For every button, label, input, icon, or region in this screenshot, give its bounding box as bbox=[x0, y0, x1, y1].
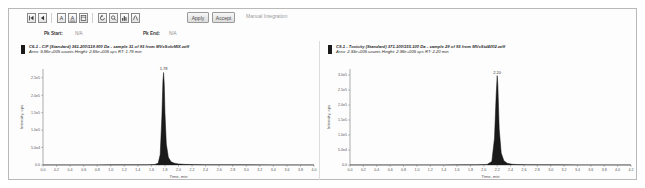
svg-text:1.0: 1.0 bbox=[108, 168, 113, 172]
svg-text:2.8: 2.8 bbox=[535, 168, 540, 172]
toolbar-separator-2 bbox=[92, 13, 93, 23]
svg-text:0.2: 0.2 bbox=[361, 168, 366, 172]
annotate-a-icon[interactable]: A bbox=[57, 13, 66, 23]
svg-text:A: A bbox=[71, 15, 75, 21]
chromatogram-viewer: A A Apply Accept Manual Integration Pk S… bbox=[8, 8, 637, 180]
svg-text:5.0e4: 5.0e4 bbox=[31, 146, 40, 150]
chromatogram-plot-left[interactable]: 0.00.20.40.60.81.01.21.41.61.82.02.22.42… bbox=[13, 59, 318, 179]
svg-text:2.0e5: 2.0e5 bbox=[31, 94, 40, 98]
svg-text:Time, min: Time, min bbox=[169, 174, 188, 179]
pk-end-value[interactable]: N/A bbox=[169, 31, 177, 36]
svg-text:0.8: 0.8 bbox=[95, 168, 100, 172]
refresh-icon[interactable] bbox=[98, 13, 107, 23]
svg-text:3.8: 3.8 bbox=[602, 168, 607, 172]
svg-text:Time, min: Time, min bbox=[481, 174, 500, 179]
chromatogram-pane-right[interactable]: C9-1 - Toxicity (Standard) 371.100/155.1… bbox=[319, 41, 635, 180]
chromatogram-panes: C6-1 - C/F (Standard) 361.200/119.900 Da… bbox=[9, 41, 636, 180]
svg-text:3.4: 3.4 bbox=[575, 168, 580, 172]
svg-text:2.2: 2.2 bbox=[495, 168, 500, 172]
peak-metrics-line: Area: 9.86e+005 counts Height: 2.65e+005… bbox=[29, 49, 189, 54]
svg-text:3.4: 3.4 bbox=[271, 168, 276, 172]
svg-text:2.5e5: 2.5e5 bbox=[31, 76, 40, 80]
svg-text:4.0: 4.0 bbox=[615, 168, 620, 172]
svg-text:0.8: 0.8 bbox=[401, 168, 406, 172]
series-color-swatch bbox=[328, 45, 332, 54]
svg-text:5.0e4: 5.0e4 bbox=[338, 148, 347, 152]
bar-view-icon[interactable] bbox=[120, 13, 129, 23]
svg-text:1.8: 1.8 bbox=[468, 168, 473, 172]
svg-text:3.6: 3.6 bbox=[284, 168, 289, 172]
svg-text:3.2: 3.2 bbox=[257, 168, 262, 172]
svg-text:0.4: 0.4 bbox=[68, 168, 73, 172]
peak-bounds-row: Pk Start: N/A Pk End: N/A bbox=[9, 29, 636, 41]
svg-text:2.2: 2.2 bbox=[190, 168, 195, 172]
pk-start-label: Pk Start: bbox=[44, 31, 63, 36]
svg-text:1.2: 1.2 bbox=[122, 168, 127, 172]
svg-text:0.4: 0.4 bbox=[374, 168, 379, 172]
nav-prev-icon[interactable] bbox=[38, 13, 47, 23]
svg-text:1.6: 1.6 bbox=[455, 168, 460, 172]
manual-integration-label: Manual Integration bbox=[246, 13, 287, 19]
svg-text:0.0: 0.0 bbox=[35, 163, 40, 167]
svg-text:3.0: 3.0 bbox=[244, 168, 249, 172]
svg-text:3.0e5: 3.0e5 bbox=[338, 73, 347, 77]
svg-text:2.0e5: 2.0e5 bbox=[338, 103, 347, 107]
nav-first-icon[interactable] bbox=[27, 13, 36, 23]
series-color-swatch bbox=[21, 45, 25, 54]
svg-text:0.0: 0.0 bbox=[348, 168, 353, 172]
toolbar-separator-1 bbox=[51, 13, 52, 23]
svg-text:2.6: 2.6 bbox=[521, 168, 526, 172]
zoom-region-icon[interactable] bbox=[109, 13, 118, 23]
svg-text:2.6: 2.6 bbox=[217, 168, 222, 172]
svg-text:0.0: 0.0 bbox=[41, 168, 46, 172]
peak-metrics-line: Area: 2.93e+005 counts Height: 2.98e+005… bbox=[336, 49, 505, 54]
svg-text:2.4: 2.4 bbox=[203, 168, 208, 172]
svg-text:0.6: 0.6 bbox=[388, 168, 393, 172]
accept-button[interactable]: Accept bbox=[212, 12, 235, 23]
svg-text:3.6: 3.6 bbox=[588, 168, 593, 172]
svg-text:1.4: 1.4 bbox=[135, 168, 140, 172]
svg-text:3.2: 3.2 bbox=[562, 168, 567, 172]
svg-text:1.6: 1.6 bbox=[149, 168, 154, 172]
svg-text:1.8: 1.8 bbox=[162, 168, 167, 172]
svg-text:4.2: 4.2 bbox=[629, 168, 634, 172]
apply-button[interactable]: Apply bbox=[187, 12, 209, 23]
svg-text:1.0e5: 1.0e5 bbox=[31, 128, 40, 132]
svg-text:1.5e5: 1.5e5 bbox=[31, 111, 40, 115]
svg-text:3.8: 3.8 bbox=[298, 168, 303, 172]
svg-text:0.2: 0.2 bbox=[54, 168, 59, 172]
svg-text:1.5e5: 1.5e5 bbox=[338, 118, 347, 122]
chromatogram-plot-right[interactable]: 0.00.20.40.60.81.01.21.41.61.82.02.22.42… bbox=[320, 59, 635, 179]
svg-text:1.0: 1.0 bbox=[414, 168, 419, 172]
svg-text:1.78: 1.78 bbox=[160, 66, 169, 71]
svg-text:Intensity, cps: Intensity, cps bbox=[326, 105, 331, 129]
svg-text:3.0: 3.0 bbox=[548, 168, 553, 172]
svg-text:2.0: 2.0 bbox=[176, 168, 181, 172]
svg-text:2.4: 2.4 bbox=[508, 168, 513, 172]
svg-text:2.20: 2.20 bbox=[493, 70, 502, 75]
pk-end-label: Pk End: bbox=[143, 31, 160, 36]
svg-text:Intensity, cps: Intensity, cps bbox=[19, 105, 24, 129]
annotate-a-alt-icon[interactable]: A bbox=[68, 13, 77, 23]
pk-start-value[interactable]: N/A bbox=[75, 31, 83, 36]
svg-text:A: A bbox=[60, 15, 64, 21]
svg-text:0.6: 0.6 bbox=[81, 168, 86, 172]
svg-text:4.0: 4.0 bbox=[312, 168, 317, 172]
svg-text:2.0: 2.0 bbox=[481, 168, 486, 172]
svg-text:1.2: 1.2 bbox=[428, 168, 433, 172]
toolbar: A A Apply Accept Manual Integration bbox=[9, 9, 636, 29]
label-box-icon[interactable] bbox=[79, 13, 88, 23]
chromatogram-pane-left[interactable]: C6-1 - C/F (Standard) 361.200/119.900 Da… bbox=[13, 41, 318, 180]
svg-text:2.8: 2.8 bbox=[230, 168, 235, 172]
svg-text:0.0: 0.0 bbox=[342, 163, 347, 167]
svg-text:1.0e5: 1.0e5 bbox=[338, 133, 347, 137]
smooth-wave-icon[interactable] bbox=[131, 13, 140, 23]
svg-text:1.4: 1.4 bbox=[441, 168, 446, 172]
svg-text:2.5e5: 2.5e5 bbox=[338, 88, 347, 92]
